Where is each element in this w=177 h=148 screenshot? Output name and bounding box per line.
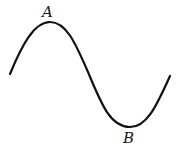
- point-label-a: A: [42, 5, 53, 20]
- wave-curve: [0, 0, 177, 148]
- sine-wave-diagram: A B: [0, 0, 177, 148]
- point-label-b: B: [123, 131, 134, 146]
